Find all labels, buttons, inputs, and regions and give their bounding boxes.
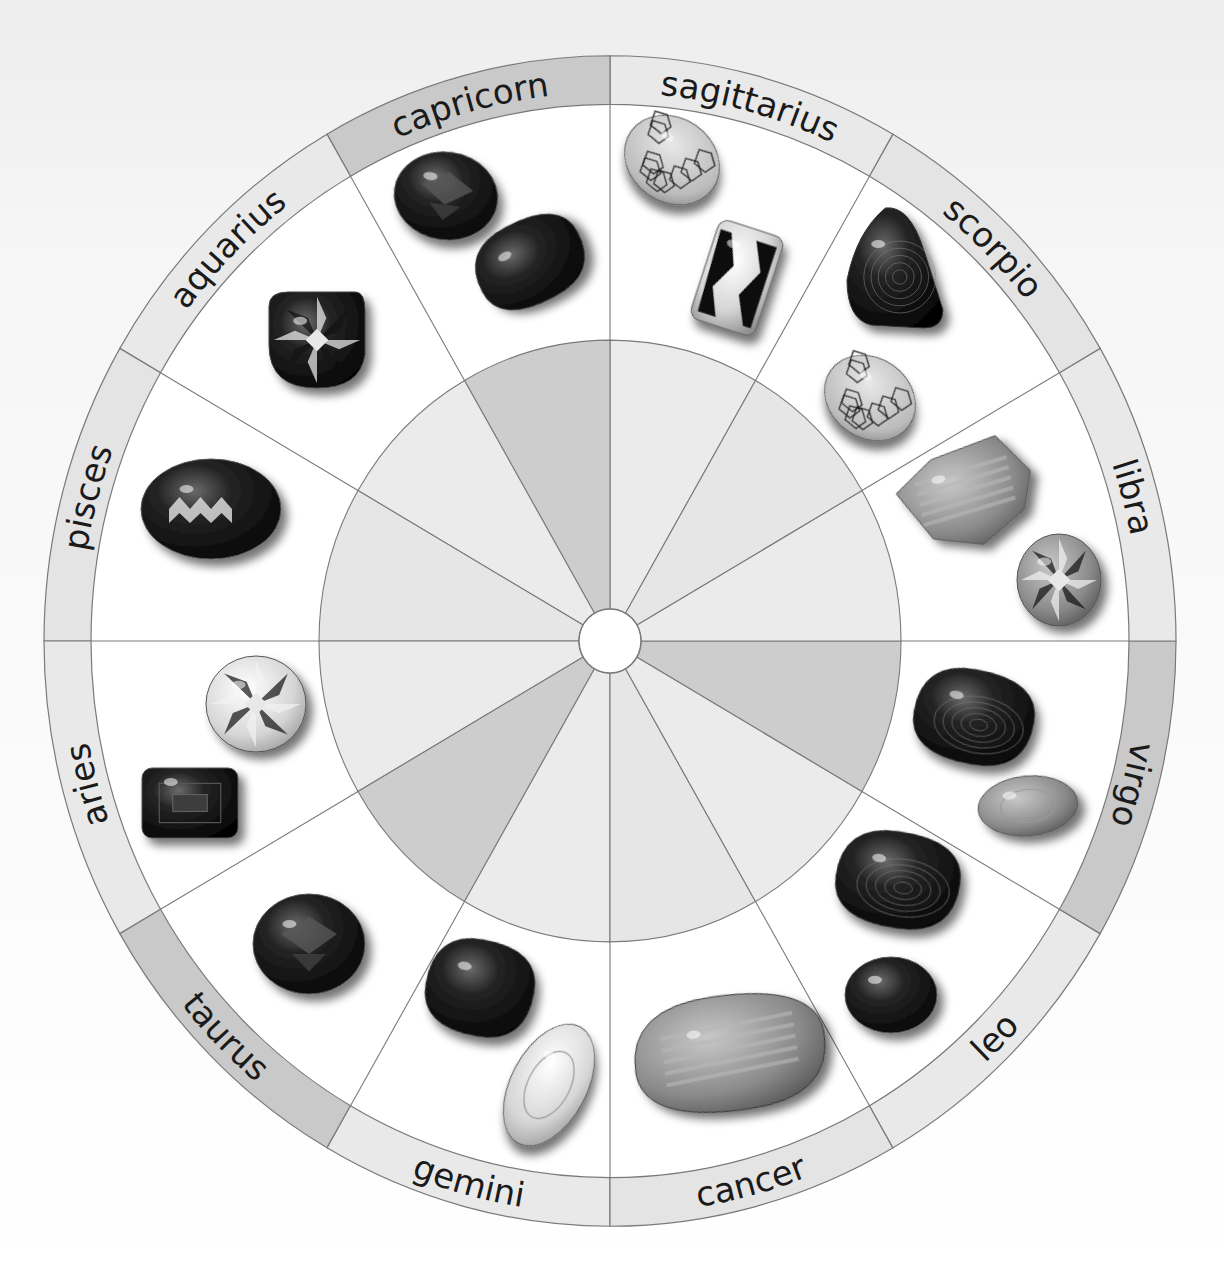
zodiac-wheel: sagittariuscapricornaquariuspiscesariest… bbox=[0, 0, 1224, 1270]
gem-amethyst-checkerboard-cut bbox=[269, 292, 365, 388]
gem-aquamarine-oval-cut bbox=[141, 459, 281, 559]
gem-ruby-emerald-cut bbox=[142, 768, 238, 838]
gem-cats-eye-cabochon bbox=[845, 957, 937, 1033]
center-hub bbox=[579, 609, 641, 673]
zodiac-gemstone-wheel: BIRTHSTONE bbox=[0, 0, 1224, 1270]
gem-diamond-round-brilliant bbox=[206, 656, 306, 752]
gem-sapphire-oval-cut bbox=[253, 894, 365, 994]
gem-opal-round-cut bbox=[1017, 534, 1101, 626]
